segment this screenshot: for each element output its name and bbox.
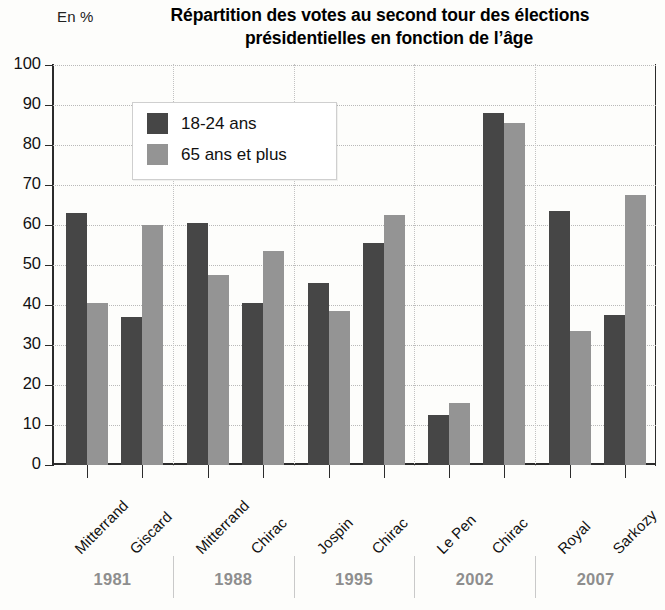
y-axis-tick-label: 0 — [0, 454, 41, 473]
y-axis-tick — [45, 345, 53, 346]
x-axis-tick — [87, 465, 88, 478]
bar-old-chirac-1988 — [263, 251, 284, 465]
bar-old-royal-2007 — [570, 331, 591, 465]
legend-label-young: 18-24 ans — [181, 114, 257, 134]
y-axis-tick-label: 10 — [0, 414, 41, 433]
y-axis-tick-label: 90 — [0, 94, 41, 113]
x-axis-tick — [449, 465, 450, 478]
y-axis-tick-label: 20 — [0, 374, 41, 393]
legend-swatch-icon-young — [147, 113, 168, 134]
x-axis-tick — [570, 465, 571, 478]
candidate-label-mitterrand-1988: Mitterrand — [192, 497, 252, 557]
candidate-label-mitterrand-1981: Mitterrand — [71, 497, 131, 557]
chart-container: En % Répartition des votes au second tou… — [0, 0, 665, 610]
year-label-1988: 1988 — [173, 570, 294, 589]
bar-young-le-pen-2002 — [428, 415, 449, 465]
bar-young-royal-2007 — [549, 211, 570, 465]
year-separator — [294, 556, 295, 598]
legend-swatch-icon-old — [147, 144, 168, 165]
chart-title-line2: présidentielles en fonction de l’âge — [120, 27, 640, 50]
year-label-2002: 2002 — [414, 570, 535, 589]
year-label-2007: 2007 — [535, 570, 656, 589]
candidate-label-giscard-1981: Giscard — [126, 508, 175, 557]
bar-old-jospin-1995 — [329, 311, 350, 465]
candidate-label-chirac-2002: Chirac — [488, 514, 531, 557]
y-axis-tick-label: 100 — [0, 54, 41, 73]
year-separator — [535, 556, 536, 598]
y-axis-tick-label: 40 — [0, 294, 41, 313]
x-axis-tick — [263, 465, 264, 478]
bar-young-sarkozy-2007 — [604, 315, 625, 465]
group-separator — [535, 64, 536, 466]
legend-label-old: 65 ans et plus — [181, 145, 287, 165]
y-axis-tick — [45, 105, 53, 106]
y-axis-tick — [45, 65, 53, 66]
legend-item-young: 18-24 ans — [147, 113, 257, 134]
y-axis-tick — [45, 385, 53, 386]
candidate-label-jospin-1995: Jospin — [313, 514, 356, 557]
candidate-label-chirac-1995: Chirac — [368, 514, 411, 557]
candidate-label-chirac-1988: Chirac — [247, 514, 290, 557]
bar-young-mitterrand-1981 — [66, 213, 87, 465]
x-axis-tick — [504, 465, 505, 478]
y-axis-tick-label: 80 — [0, 134, 41, 153]
group-separator — [414, 64, 415, 466]
y-axis-tick-label: 30 — [0, 334, 41, 353]
y-axis-tick-label: 70 — [0, 174, 41, 193]
chart-title-line1: Répartition des votes au second tour des… — [171, 5, 590, 25]
bar-young-chirac-1988 — [242, 303, 263, 465]
x-axis-tick — [384, 465, 385, 478]
gridline — [52, 185, 656, 186]
y-axis-tick-label: 60 — [0, 214, 41, 233]
bar-old-sarkozy-2007 — [625, 195, 646, 465]
y-axis-tick — [45, 265, 53, 266]
year-separator — [414, 556, 415, 598]
y-axis-tick — [45, 225, 53, 226]
bar-young-chirac-1995 — [363, 243, 384, 465]
year-label-1995: 1995 — [294, 570, 415, 589]
bar-old-mitterrand-1981 — [87, 303, 108, 465]
bar-old-mitterrand-1988 — [208, 275, 229, 465]
x-axis-tick — [625, 465, 626, 478]
x-axis-tick — [329, 465, 330, 478]
candidate-label-royal-2007: Royal — [554, 518, 593, 557]
y-axis-tick — [45, 185, 53, 186]
y-axis-tick — [45, 465, 53, 466]
legend: 18-24 ans 65 ans et plus — [132, 102, 337, 180]
bar-young-chirac-2002 — [483, 113, 504, 465]
y-axis-unit-label: En % — [57, 8, 94, 25]
chart-title: Répartition des votes au second tour des… — [120, 4, 640, 50]
candidate-label-sarkozy-2007: Sarkozy — [609, 506, 660, 557]
bar-young-mitterrand-1988 — [187, 223, 208, 465]
bar-old-chirac-2002 — [504, 123, 525, 465]
legend-item-old: 65 ans et plus — [147, 144, 287, 165]
bar-old-giscard-1981 — [142, 225, 163, 465]
year-separator — [173, 556, 174, 598]
year-label-1981: 1981 — [52, 570, 173, 589]
bar-young-jospin-1995 — [308, 283, 329, 465]
bar-old-chirac-1995 — [384, 215, 405, 465]
y-axis-tick — [45, 305, 53, 306]
candidate-label-le-pen-2002: Le Pen — [433, 511, 479, 557]
bar-old-le-pen-2002 — [449, 403, 470, 465]
x-axis-tick — [142, 465, 143, 478]
x-axis-tick — [208, 465, 209, 478]
y-axis-tick — [45, 425, 53, 426]
y-axis-tick — [45, 145, 53, 146]
y-axis-tick-label: 50 — [0, 254, 41, 273]
bar-young-giscard-1981 — [121, 317, 142, 465]
gridline — [52, 65, 656, 66]
